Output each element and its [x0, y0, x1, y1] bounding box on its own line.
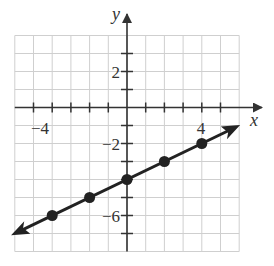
data-point [122, 174, 133, 185]
y-axis-label: y [110, 4, 120, 24]
tick-label-y-neg2: −2 [102, 135, 120, 154]
plotted-line [11, 125, 240, 235]
data-point [84, 192, 95, 203]
data-point [47, 210, 58, 221]
tick-label-x-4: 4 [197, 119, 206, 138]
data-point [159, 156, 170, 167]
data-point [196, 138, 207, 149]
x-axis-label: x [249, 110, 258, 130]
tick-label-y-neg6: −6 [102, 207, 120, 226]
tick-label-y-2: 2 [112, 63, 121, 82]
coordinate-plane: y x −4 4 2 −2 −6 [0, 0, 274, 266]
tick-label-x-neg4: −4 [31, 119, 50, 138]
